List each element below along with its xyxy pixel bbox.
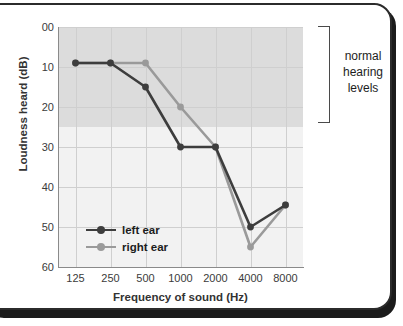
legend-item-left-ear: left ear: [86, 221, 168, 238]
y-tick-label: 40: [28, 181, 54, 193]
legend-swatch-left-ear: [86, 224, 116, 236]
data-point: [212, 144, 219, 151]
data-point: [72, 60, 79, 67]
data-point: [247, 244, 254, 251]
x-axis-line: [58, 267, 304, 268]
data-point: [282, 202, 289, 209]
y-axis-tick-labels: 00102030405060: [26, 27, 54, 267]
y-tick-label: 00: [28, 21, 54, 33]
legend-swatch-right-ear: [86, 241, 116, 253]
x-axis-title: Frequency of sound (Hz): [58, 291, 303, 303]
series-line-right-ear: [76, 63, 286, 247]
chart-legend: left ear right ear: [86, 221, 168, 255]
audiogram-chart: 00102030405060 1252505001000200040008000…: [0, 0, 403, 326]
legend-label-right-ear: right ear: [122, 241, 168, 253]
y-tick-label: 30: [28, 141, 54, 153]
normal-hearing-bracket: [318, 26, 330, 123]
y-tick-label: 50: [28, 221, 54, 233]
y-tick-label: 20: [28, 101, 54, 113]
data-point: [142, 84, 149, 91]
annotation-line-2: hearing: [332, 64, 394, 80]
data-point: [107, 60, 114, 67]
y-tick-label: 10: [28, 61, 54, 73]
y-axis-title: Loudness heard (dB): [17, 39, 29, 189]
legend-item-right-ear: right ear: [86, 238, 168, 255]
normal-hearing-annotation: normal hearing levels: [332, 48, 394, 96]
annotation-line-3: levels: [332, 80, 394, 96]
data-point: [177, 144, 184, 151]
data-point: [177, 104, 184, 111]
annotation-line-1: normal: [332, 48, 394, 64]
legend-label-left-ear: left ear: [122, 224, 160, 236]
y-tick-label: 60: [28, 261, 54, 273]
data-point: [247, 224, 254, 231]
x-axis-tick-labels: 1252505001000200040008000: [58, 272, 303, 288]
x-tick-label: 8000: [263, 272, 309, 284]
data-point: [142, 60, 149, 67]
